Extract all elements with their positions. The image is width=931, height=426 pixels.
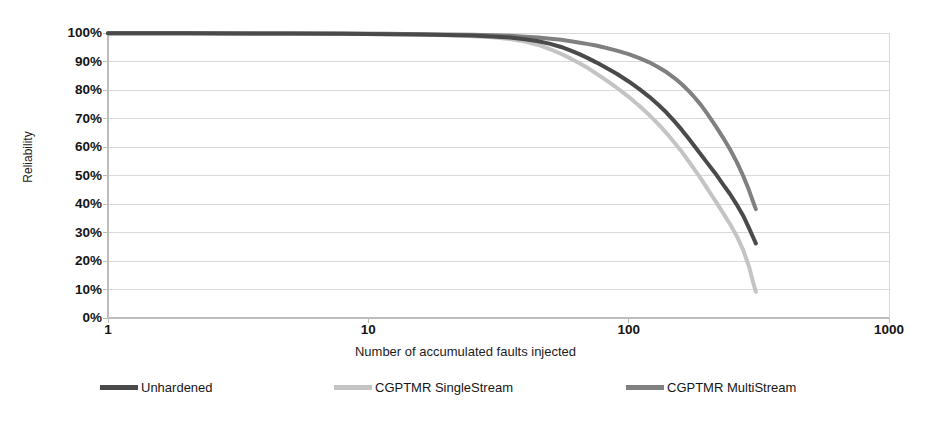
x-tick-label: 10	[361, 322, 376, 337]
series-line-unhardened	[108, 33, 756, 243]
x-tick-label: 100	[617, 322, 640, 337]
legend-color-swatch	[100, 385, 138, 390]
legend-item[interactable]: CGPTMR MultiStream	[626, 380, 796, 395]
legend-color-swatch	[626, 385, 664, 390]
grid-lines	[108, 33, 889, 318]
legend-item-label: CGPTMR SingleStream	[375, 380, 513, 395]
x-axis-title: Number of accumulated faults injected	[0, 344, 931, 359]
legend-item[interactable]: Unhardened	[100, 380, 213, 395]
series-line-cgptmr-multistream	[108, 33, 756, 209]
legend-item[interactable]: CGPTMR SingleStream	[334, 380, 513, 395]
x-axis-tick-labels: 1101001000	[0, 322, 931, 344]
series-line-cgptmr-singlestream	[108, 33, 756, 291]
series-lines	[108, 33, 756, 291]
reliability-chart: Reliability 100%90%80%70%60%50%40%30%20%…	[0, 0, 931, 426]
plot-area	[0, 0, 931, 426]
legend-item-label: CGPTMR MultiStream	[667, 380, 796, 395]
chart-legend: UnhardenedCGPTMR SingleStreamCGPTMR Mult…	[0, 380, 931, 408]
legend-item-label: Unhardened	[141, 380, 213, 395]
legend-color-swatch	[334, 385, 372, 390]
x-axis-title-text: Number of accumulated faults injected	[355, 344, 576, 359]
x-tick-label: 1000	[874, 322, 904, 337]
x-tick-label: 1	[104, 322, 112, 337]
axis-lines	[103, 33, 889, 323]
